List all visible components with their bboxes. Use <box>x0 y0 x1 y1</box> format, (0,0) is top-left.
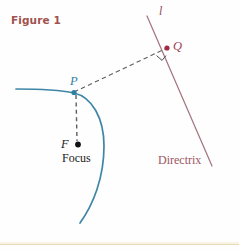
dashed-segment-pf <box>76 95 77 141</box>
dashed-segment-pq <box>74 48 167 92</box>
point-q-label: Q <box>173 39 182 54</box>
point-f-label: F <box>61 137 69 152</box>
parabola-diagram <box>0 0 239 251</box>
figure-caption: Figure 1 <box>11 14 61 26</box>
line-l-label: l <box>159 4 162 19</box>
focus-label: Focus <box>62 151 91 166</box>
point-p-label: P <box>70 74 78 89</box>
point-q-dot <box>164 45 169 50</box>
directrix-label: Directrix <box>158 153 201 168</box>
point-f-dot <box>75 142 81 148</box>
figure-container: Figure 1 l Q P F Focus Directrix <box>0 0 239 251</box>
point-p-dot <box>71 90 76 95</box>
